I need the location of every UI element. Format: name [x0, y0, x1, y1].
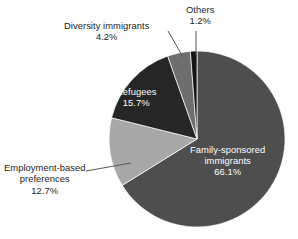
slice-label-others-percent: 1.2% [186, 15, 214, 26]
slice-label-employment-line2: preferences [4, 173, 86, 184]
slice-label-diversity-percent: 4.2% [64, 31, 149, 42]
slice-label-family-line1: Family-sponsored [190, 144, 265, 155]
slice-label-others-name: Others [186, 4, 214, 15]
leader-line-diversity-immigrants [168, 31, 183, 57]
slice-label-refugees-name: Refugees [116, 86, 157, 97]
slice-label-employment-based-preferences: Employment-based preferences 12.7% [4, 162, 86, 196]
slice-label-refugees-percent: 15.7% [116, 97, 157, 108]
slice-label-family-sponsored-immigrants: Family-sponsored immigrants 66.1% [190, 144, 265, 178]
pie-chart-figure: Diversity immigrants 4.2% Others 1.2% Em… [0, 0, 298, 239]
slice-label-refugees: Refugees 15.7% [116, 86, 157, 108]
slice-label-family-percent: 66.1% [190, 166, 265, 177]
slice-label-diversity-immigrants: Diversity immigrants 4.2% [64, 20, 149, 43]
slice-label-family-line2: immigrants [190, 155, 265, 166]
slice-label-employment-percent: 12.7% [4, 185, 86, 196]
pie-slices [109, 51, 285, 227]
slice-label-others: Others 1.2% [186, 4, 214, 27]
slice-label-diversity-name: Diversity immigrants [64, 20, 149, 31]
slice-label-employment-line1: Employment-based [4, 162, 86, 173]
